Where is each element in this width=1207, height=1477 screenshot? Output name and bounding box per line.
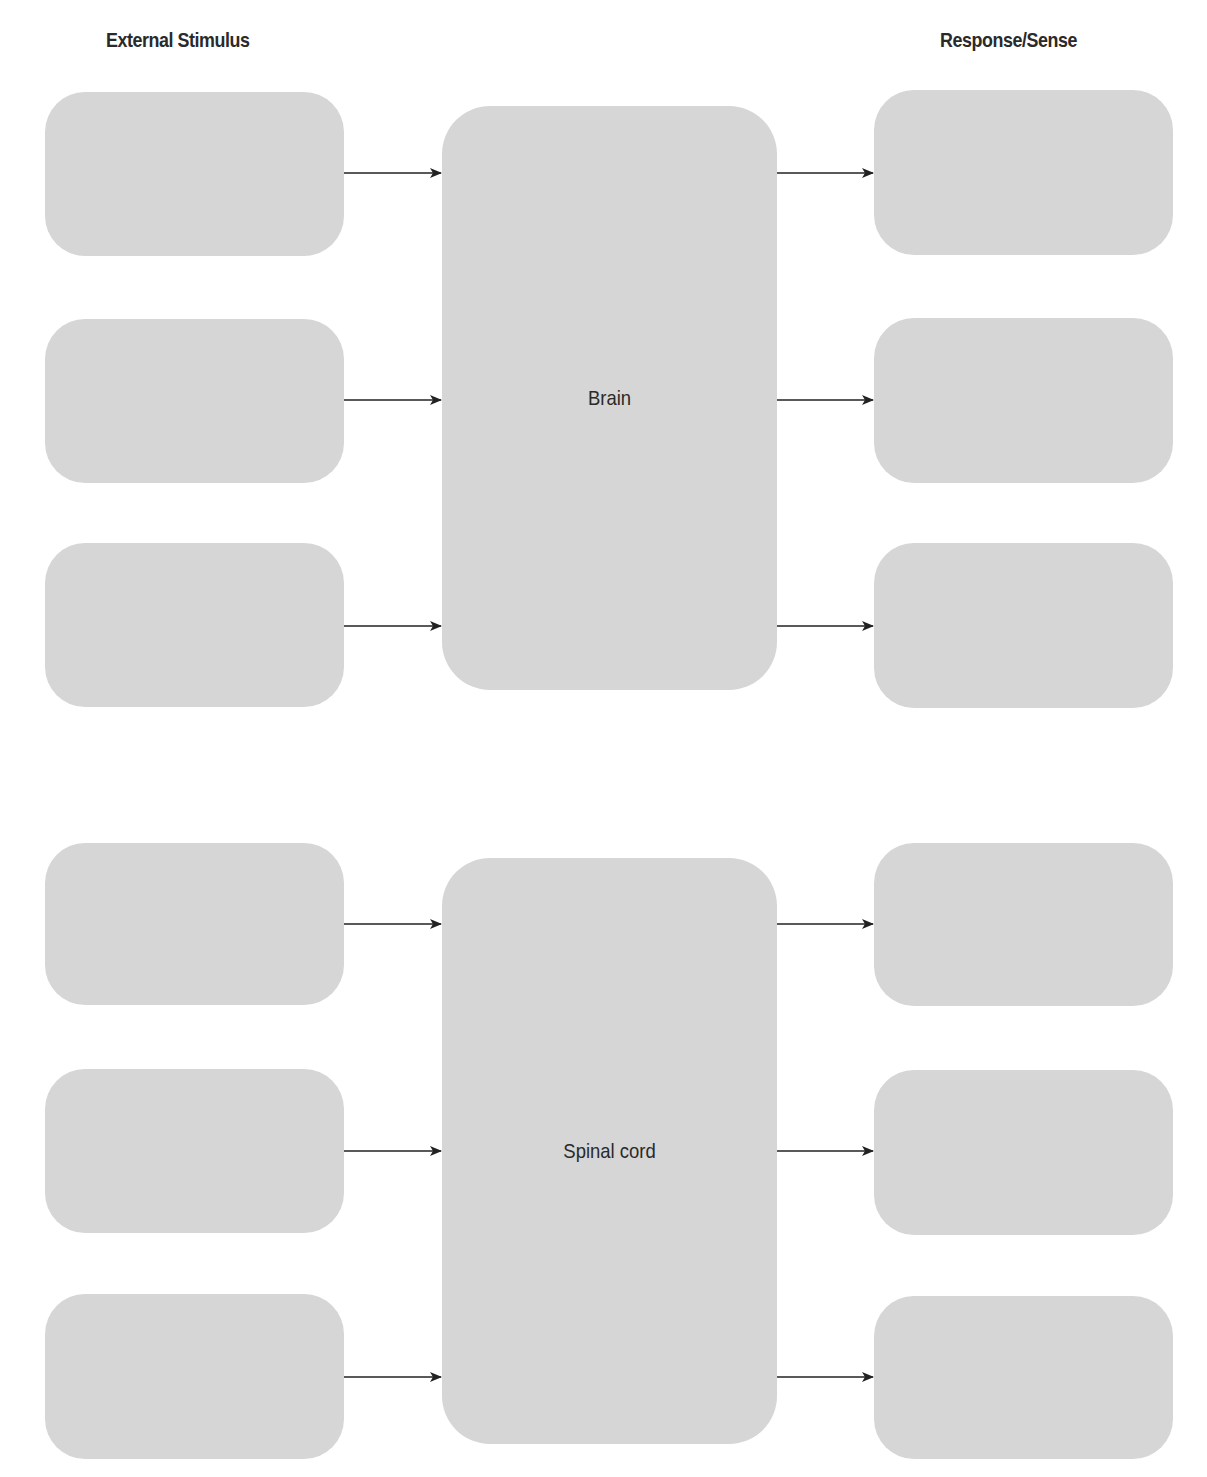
arrow-icons (344, 173, 873, 1377)
arrows-layer (0, 0, 1207, 1477)
